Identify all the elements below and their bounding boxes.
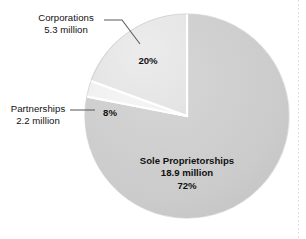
callout-partnerships-name: Partnerships (2, 103, 74, 115)
callout-partnerships-amount: 2.2 million (2, 115, 74, 127)
callout-corporations-amount: 5.3 million (26, 24, 106, 36)
slice-label-sole-proprietorships: Sole Proprietorships 18.9 million 72% (110, 155, 264, 192)
slice-label-sole-amount: 18.9 million (110, 167, 264, 179)
callout-partnerships: Partnerships 2.2 million (2, 103, 74, 127)
slice-label-sole-name: Sole Proprietorships (110, 155, 264, 167)
callout-corporations-name: Corporations (26, 12, 106, 24)
callout-corporations: Corporations 5.3 million (26, 12, 106, 36)
slice-label-corporations-percent: 20% (131, 55, 165, 67)
slice-label-partnerships-percent: 8% (96, 107, 124, 119)
pie-chart-figure: Corporations 5.3 million Partnerships 2.… (0, 0, 306, 239)
slice-label-sole-percent: 72% (110, 180, 264, 192)
